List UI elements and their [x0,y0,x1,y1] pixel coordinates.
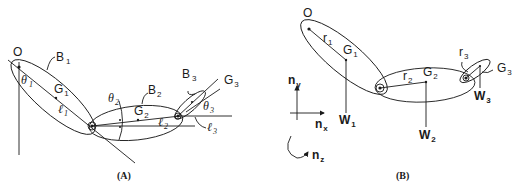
l3-label: ℓ3 [207,120,217,136]
origin-point-b [307,27,310,30]
theta2-label: θ2 [108,91,119,107]
b3-label: B3 [182,67,197,83]
g2-label-a: G2 [134,104,149,120]
nz-axis-label: nz [312,148,324,164]
g3-point-a [191,101,193,103]
panel-b-caption: (B) [396,170,409,182]
b2-label: B2 [148,83,162,99]
g3-point-b [479,65,481,67]
origin-point-a [17,65,20,68]
g2-point-b [425,81,427,83]
b1-label: B1 [56,50,71,66]
g1-point-b [345,59,347,61]
body-1-ellipse-b [292,9,397,104]
origin-label-a: O [13,45,22,59]
w2-label: W2 [419,128,436,144]
panel-b-labels: O r1 r2 r3 G1 G2 G3 W1 W2 W3 ny nx nz (B… [288,6,512,182]
joint-1-2-point [90,124,93,127]
g1-label-b: G1 [343,43,358,59]
r3-label: r3 [459,45,469,61]
g3-label-a: G3 [224,73,239,89]
r2-label: r2 [403,69,413,85]
g1-point-a [55,97,57,99]
joint-2-3-point-b [464,76,467,79]
r1-label: r1 [323,31,333,47]
theta2-tick-top [119,119,121,121]
g3-label-b: G3 [497,61,512,77]
nz-rotation-arrow [288,136,308,158]
nx-axis-label: nx [315,117,328,133]
b3-leader [188,91,195,95]
joint-2-3-point [176,114,179,117]
panel-a-labels: O B1 B2 B3 G1 G2 G3 θ1 θ2 θ3 ℓ1 ℓ2 ℓ3 (A… [13,45,239,182]
b1-leader [47,57,55,70]
link1-axis-line [8,60,135,163]
g1-label-a: G1 [54,82,69,98]
g2-point-a [137,119,139,121]
ny-axis-label: ny [288,73,301,89]
theta3-label: θ3 [203,99,214,115]
joint-1-2-point-b [378,86,381,89]
theta2-tick-bottom [119,126,121,128]
r3-leader [462,62,468,72]
w1-label: W1 [339,113,356,129]
panel-b [288,9,493,158]
w3-label: W3 [474,89,491,105]
l3-leader [195,117,206,128]
g2-label-b: G2 [423,65,438,81]
diagram-canvas: O B1 B2 B3 G1 G2 G3 θ1 θ2 θ3 ℓ1 ℓ2 ℓ3 (A… [0,0,520,192]
origin-label-b: O [303,6,312,20]
panel-a-caption: (A) [117,170,131,182]
